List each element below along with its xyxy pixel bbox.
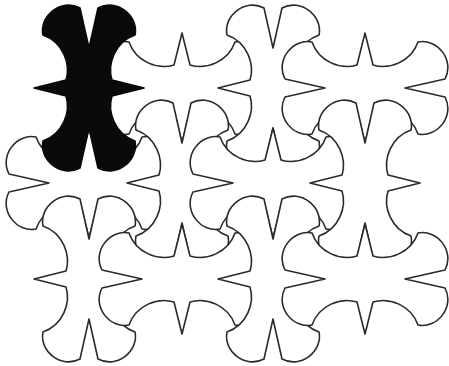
tessellation-figure xyxy=(0,0,449,366)
tiles-layer xyxy=(6,5,448,362)
